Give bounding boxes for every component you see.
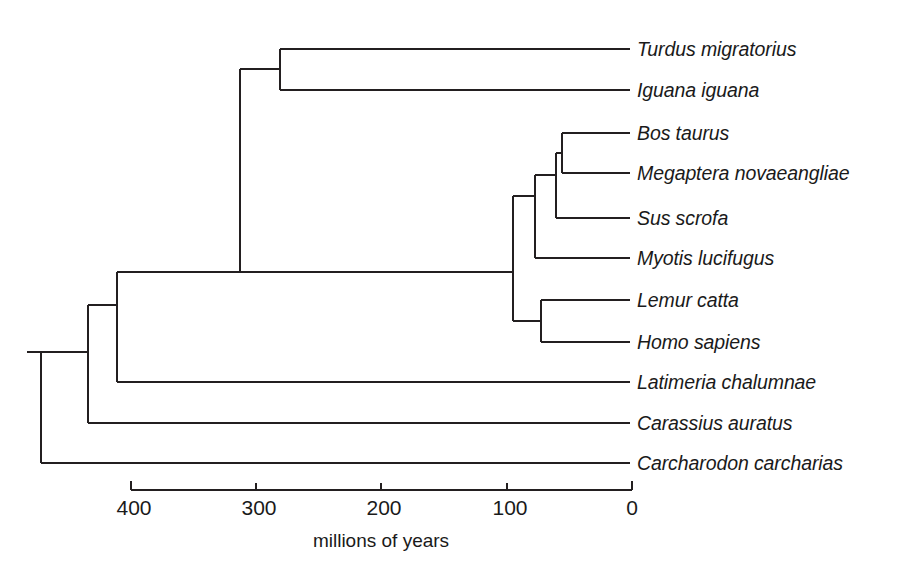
tip-label-turdus-migratorius: Turdus migratorius [637, 38, 796, 61]
axis-tick-label-200: 200 [366, 496, 401, 520]
tip-label-megaptera-novaeangliae: Megaptera novaeangliae [637, 162, 849, 185]
tip-label-carcharodon-carcharias: Carcharodon carcharias [637, 452, 843, 475]
tip-label-homo-sapiens: Homo sapiens [637, 331, 760, 354]
tip-label-latimeria-chalumnae: Latimeria chalumnae [637, 371, 816, 394]
axis-tick-label-400: 400 [116, 496, 151, 520]
tip-label-myotis-lucifugus: Myotis lucifugus [637, 247, 774, 270]
axis-tick-label-0: 0 [626, 496, 638, 520]
axis-tick-label-300: 300 [241, 496, 276, 520]
tip-label-carassius-auratus: Carassius auratus [637, 412, 792, 435]
axis-tick-label-100: 100 [492, 496, 527, 520]
phylogenetic-tree-figure: Turdus migratorius Iguana iguana Bos tau… [0, 0, 920, 581]
tip-label-sus-scrofa: Sus scrofa [637, 207, 728, 230]
axis-title: millions of years [313, 530, 449, 552]
tip-label-bos-taurus: Bos taurus [637, 122, 729, 145]
tree-branches [0, 0, 920, 581]
tip-label-iguana-iguana: Iguana iguana [637, 79, 759, 102]
tip-label-lemur-catta: Lemur catta [637, 289, 739, 312]
